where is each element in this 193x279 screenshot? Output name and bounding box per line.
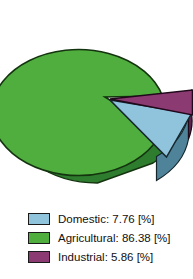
legend-label-industrial: Industrial: 5.86 [%] <box>58 251 153 264</box>
legend-item-agricultural: Agricultural: 86.38 [%] <box>28 229 193 247</box>
legend-item-industrial: Industrial: 5.86 [%] <box>28 248 193 266</box>
legend-swatch-domestic <box>28 213 50 225</box>
chart-legend: Domestic: 7.76 [%] Agricultural: 86.38 [… <box>28 210 193 267</box>
legend-item-domestic: Domestic: 7.76 [%] <box>28 210 193 228</box>
legend-label-domestic: Domestic: 7.76 [%] <box>58 213 155 226</box>
pie-svg <box>0 0 193 196</box>
legend-swatch-agricultural <box>28 232 50 244</box>
legend-swatch-industrial <box>28 251 50 263</box>
pie-chart-figure: Domestic: 7.76 [%] Agricultural: 86.38 [… <box>0 0 193 279</box>
pie-plot-area <box>0 0 193 196</box>
legend-label-agricultural: Agricultural: 86.38 [%] <box>58 232 171 245</box>
